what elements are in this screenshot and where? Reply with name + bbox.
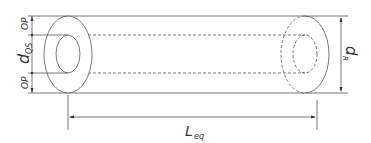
left-outer-ellipse [44,16,92,93]
right-outer-hidden-arc [281,16,305,93]
right-inner-ellipse [293,35,317,73]
pipe-diagram: OP OP d QS d R L eq [0,0,371,143]
dr-subscript: R [341,56,349,61]
dqs-subscript: QS [25,43,34,54]
op-bottom-label: OP [20,76,30,89]
op-top-label: OP [20,17,30,30]
leq-label: L [185,123,193,139]
dr-label: d [342,46,360,56]
leq-subscript: eq [194,132,204,141]
